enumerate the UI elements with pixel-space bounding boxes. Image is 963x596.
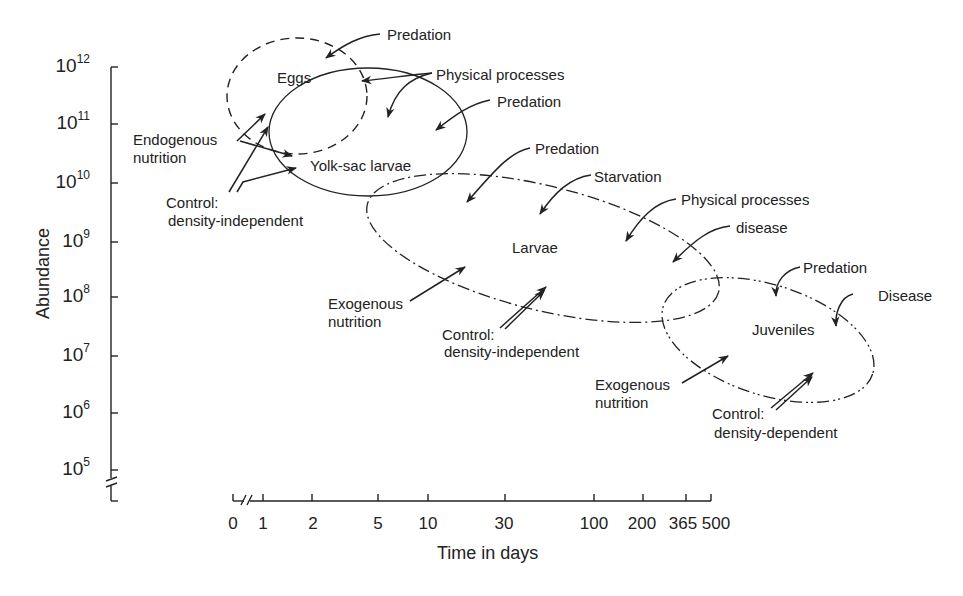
y-tick-exp: 8 [83, 282, 90, 296]
y-tick-exp: 12 [77, 52, 90, 66]
stage-juveniles-label: Juveniles [752, 321, 815, 339]
y-tick-base: 10 [62, 230, 83, 251]
y-tick-1e10: 1010 [40, 171, 90, 193]
label-juv-disease: Disease [878, 287, 932, 305]
label-disease-lower: disease [736, 219, 788, 237]
y-tick-base: 10 [62, 458, 83, 479]
y-tick-base: 10 [62, 285, 83, 306]
x-tick-10: 10 [419, 514, 438, 534]
y-tick-1e6: 106 [40, 401, 90, 423]
y-tick-base: 10 [56, 55, 77, 76]
x-axis-title: Time in days [437, 543, 538, 564]
label-exogenous-2a: Exogenous [595, 376, 670, 394]
y-tick-exp: 7 [83, 341, 90, 355]
x-tick-5: 5 [373, 514, 382, 534]
y-tick-base: 10 [62, 344, 83, 365]
label-physical-processes-1: Physical processes [436, 66, 564, 84]
label-control-di-1a: Control: [166, 194, 219, 212]
y-tick-base: 10 [56, 171, 77, 192]
y-tick-1e11: 1011 [40, 112, 90, 134]
label-control-dd-b: density-dependent [714, 424, 837, 442]
label-starvation: Starvation [594, 168, 662, 186]
diagram-canvas [0, 0, 963, 596]
y-tick-exp: 9 [83, 227, 90, 241]
stage-larvae-label: Larvae [512, 239, 558, 257]
juveniles-ellipse [646, 254, 889, 427]
eggs-ellipse [227, 38, 367, 154]
y-tick-exp: 6 [83, 398, 90, 412]
label-eggs-predation: Predation [387, 26, 451, 44]
y-tick-1e12: 1012 [40, 55, 90, 77]
label-exogenous-2b: nutrition [595, 394, 648, 412]
x-tick-2: 2 [308, 514, 317, 534]
y-tick-base: 10 [56, 112, 77, 133]
x-axis [233, 494, 711, 505]
yolk-sac-ellipse [269, 68, 467, 196]
x-tick-500: 500 [702, 514, 730, 534]
y-tick-1e5: 105 [40, 458, 90, 480]
y-tick-1e7: 107 [40, 344, 90, 366]
label-endogenous-1: Endogenous [133, 131, 217, 149]
label-control-dd-a: Control: [712, 405, 765, 423]
label-exogenous-1b: nutrition [328, 313, 381, 331]
x-tick-1: 1 [258, 514, 267, 534]
label-yolk-predation: Predation [497, 93, 561, 111]
y-tick-exp: 10 [77, 168, 90, 182]
label-larvae-predation: Predation [535, 140, 599, 158]
stage-yolk-sac-label: Yolk-sac larvae [310, 157, 411, 175]
y-axis-title: Abundance [33, 224, 54, 324]
label-control-di-2b: density-independent [444, 343, 579, 361]
y-tick-exp: 11 [78, 109, 90, 123]
label-endogenous-2: nutrition [133, 149, 186, 167]
x-tick-0: 0 [228, 514, 237, 534]
y-tick-base: 10 [62, 401, 83, 422]
stage-eggs-label: Eggs [277, 69, 311, 87]
label-juv-predation: Predation [803, 259, 867, 277]
y-tick-exp: 5 [83, 455, 90, 469]
label-exogenous-1a: Exogenous [328, 295, 403, 313]
x-tick-200: 200 [628, 514, 656, 534]
y-axis [106, 67, 118, 501]
x-tick-365: 365 [669, 514, 697, 534]
label-control-di-2a: Control: [442, 326, 495, 344]
label-physical-processes-2: Physical processes [681, 191, 809, 209]
label-control-di-1b: density-independent [168, 212, 303, 230]
x-tick-30: 30 [495, 514, 514, 534]
x-tick-100: 100 [580, 514, 608, 534]
